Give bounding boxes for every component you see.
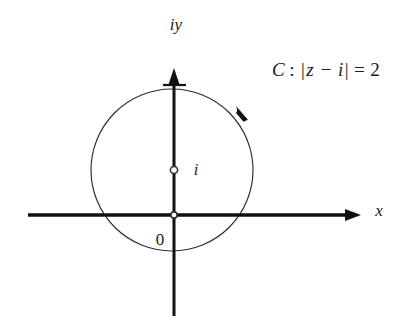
origin-label: 0	[156, 230, 165, 249]
equation-expression: z − i	[305, 59, 344, 80]
circle-direction-arrow-icon	[236, 106, 248, 122]
x-axis-arrowhead-icon	[345, 209, 361, 221]
y-axis-arrowhead-icon	[168, 68, 180, 86]
y-axis	[163, 68, 186, 316]
equation-symbol-C: C	[272, 59, 285, 80]
equation-colon: :	[289, 59, 295, 80]
center-point-marker-icon	[170, 166, 177, 173]
complex-plane-figure: iy x 0 i C:|z − i|=2	[0, 0, 402, 335]
x-axis-label: x	[374, 201, 383, 220]
equation-equals: =	[354, 59, 365, 80]
figure-canvas: iy x 0 i C:|z − i|=2	[0, 0, 402, 335]
contour-equation-text: C:|z − i|=2	[272, 59, 380, 80]
x-axis	[28, 209, 361, 221]
origin-marker-icon	[171, 212, 177, 218]
contour-equation-annotation: C:|z − i|=2	[272, 59, 380, 80]
equation-modulus-open: |	[301, 59, 305, 80]
equation-modulus-close: |	[345, 59, 349, 80]
y-axis-label: iy	[170, 15, 183, 34]
center-point-label: i	[194, 161, 198, 178]
equation-value: 2	[370, 59, 380, 80]
